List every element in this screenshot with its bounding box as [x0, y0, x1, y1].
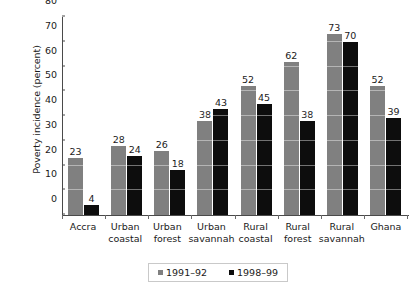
category-label-line: forest [146, 233, 188, 245]
legend-item-1998-99: 1998–99 [229, 267, 278, 278]
x-axis-tick-mark [407, 215, 408, 219]
bar-value-label: 52 [371, 74, 383, 85]
bar[interactable]: 39 [386, 118, 401, 215]
y-axis-tick: 10 [45, 162, 62, 181]
bar-groups: 2342824261838435245623873705239 [62, 17, 407, 215]
bar[interactable]: 4 [84, 205, 99, 215]
bar[interactable]: 70 [343, 42, 358, 215]
x-axis-category-label: Ruralsavannah [319, 221, 365, 244]
y-axis-tick: 70 [45, 13, 62, 32]
y-axis-tick-mark [62, 115, 65, 116]
bar[interactable]: 62 [284, 62, 299, 215]
y-axis-tick: 0 [51, 187, 62, 206]
y-axis-tick-label: 30 [45, 118, 62, 129]
y-axis-tick: 60 [45, 38, 62, 57]
bar-value-label: 43 [215, 97, 227, 108]
x-axis-tick-mark [364, 215, 365, 219]
bar[interactable]: 28 [111, 146, 126, 215]
bar-value-label: 18 [172, 158, 184, 169]
category-label-line: Urban [146, 221, 188, 233]
bar-value-label: 38 [301, 109, 313, 120]
category-label-line: forest [277, 233, 319, 245]
bar-value-label: 45 [258, 92, 270, 103]
bar[interactable]: 26 [154, 151, 169, 215]
y-axis-tick-label: 0 [51, 193, 62, 204]
y-axis-tick: 30 [45, 112, 62, 131]
plot-area: 01020304050607080 2342824261838435245623… [62, 17, 407, 215]
bar-value-label: 24 [129, 144, 141, 155]
category-label-line: Accra [62, 221, 104, 233]
y-axis-tick-label: 20 [45, 143, 62, 154]
y-axis-tick-mark [62, 16, 65, 17]
x-axis-tick-mark [321, 215, 322, 219]
category-label-line: Urban [104, 221, 146, 233]
x-axis-category-label: Urbanforest [146, 221, 188, 244]
bar-value-label: 52 [242, 74, 254, 85]
bar[interactable]: 38 [197, 121, 212, 215]
bar[interactable]: 23 [68, 158, 83, 215]
x-axis-category-label: Urbansavannah [188, 221, 234, 244]
y-axis-tick-label: 70 [45, 19, 62, 30]
x-axis-tick-mark [105, 215, 106, 219]
bar-group: 5239 [364, 17, 407, 215]
bar[interactable]: 24 [127, 156, 142, 215]
bar-pair: 3843 [191, 17, 234, 215]
bar-group: 2618 [148, 17, 191, 215]
y-axis-tick-mark [62, 189, 65, 190]
bar-value-label: 38 [199, 109, 211, 120]
bar-group: 2824 [105, 17, 148, 215]
bar-value-label: 23 [70, 146, 82, 157]
y-axis-tick-mark [62, 139, 65, 140]
legend-swatch-icon [158, 270, 163, 275]
y-axis-tick-label: 40 [45, 94, 62, 105]
bar-value-label: 73 [328, 22, 340, 33]
bar-value-label: 70 [344, 30, 356, 41]
bar[interactable]: 38 [300, 121, 315, 215]
x-axis-tick-mark [191, 215, 192, 219]
x-axis-category-label: Urbancoastal [104, 221, 146, 244]
y-axis-tick-label: 10 [45, 168, 62, 179]
bar-pair: 2618 [148, 17, 191, 215]
category-label-line: Ghana [365, 221, 407, 233]
bar[interactable]: 73 [327, 34, 342, 215]
y-axis-tick-mark [62, 164, 65, 165]
category-label-line: Rural [319, 221, 365, 233]
x-axis-category-label: Ruralcoastal [234, 221, 276, 244]
bar-pair: 2824 [105, 17, 148, 215]
bar-chart: Poverty incidence (percent) 010203040506… [0, 0, 419, 290]
y-axis-tick-mark [62, 90, 65, 91]
bar[interactable]: 18 [170, 170, 185, 215]
bar[interactable]: 52 [370, 86, 385, 215]
bar-value-label: 39 [387, 106, 399, 117]
x-axis-tick-mark [235, 215, 236, 219]
category-label-line: Rural [277, 221, 319, 233]
bar-group: 7370 [321, 17, 364, 215]
legend-label: 1991–92 [166, 267, 207, 278]
bar[interactable]: 43 [213, 109, 228, 215]
y-axis-tick: 40 [45, 88, 62, 107]
bar[interactable]: 52 [241, 86, 256, 215]
bar-pair: 234 [62, 17, 105, 215]
x-axis-tick-mark [278, 215, 279, 219]
bar-value-label: 28 [113, 134, 125, 145]
x-axis-tick-mark [62, 215, 63, 219]
legend-label: 1998–99 [237, 267, 278, 278]
y-axis-tick: 80 [45, 0, 62, 8]
bar-pair: 6238 [278, 17, 321, 215]
category-label-line: coastal [234, 233, 276, 245]
y-axis-tick-label: 50 [45, 69, 62, 80]
category-label-line: Rural [234, 221, 276, 233]
x-axis-line [62, 215, 409, 216]
bar-group: 6238 [278, 17, 321, 215]
y-axis-tick: 20 [45, 137, 62, 156]
y-axis-tick-mark [62, 65, 65, 66]
chart-legend: 1991–92 1998–99 [148, 263, 288, 282]
bar[interactable]: 45 [257, 104, 272, 215]
x-axis-category-label: Ruralforest [277, 221, 319, 244]
y-axis-tick-mark [62, 40, 65, 41]
bar-group: 3843 [191, 17, 234, 215]
bar-group: 234 [62, 17, 105, 215]
bar-pair: 5245 [235, 17, 278, 215]
y-axis-tick-label: 80 [45, 0, 62, 6]
legend-item-1991-92: 1991–92 [158, 267, 207, 278]
